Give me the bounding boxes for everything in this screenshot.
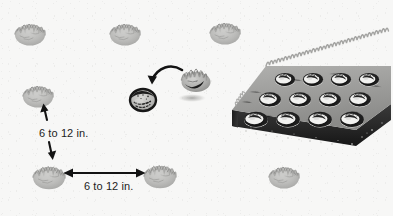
plant-top-left xyxy=(15,24,45,46)
plant-bottom-left xyxy=(33,166,65,189)
plant-top-right xyxy=(210,23,240,45)
tray-cell-r3c3 xyxy=(308,112,332,128)
tray-cell-r2c1 xyxy=(259,92,281,107)
tray-cell-r3c4 xyxy=(340,112,364,128)
tray-cell-r1c2 xyxy=(303,73,323,87)
held-seedling xyxy=(182,69,211,92)
tray-cell-r1c4 xyxy=(359,73,379,87)
plant-bottom-mid xyxy=(144,165,176,188)
tray-cell-r2c3 xyxy=(319,92,341,107)
transplant-action xyxy=(130,67,211,111)
transplant-arrow xyxy=(148,67,182,85)
tray-cell-r3c1 xyxy=(244,112,268,128)
horizontal-spacing-arrow xyxy=(63,169,145,178)
plant-top-center xyxy=(110,24,140,46)
dimension-arrows xyxy=(40,103,145,177)
vertical-spacing-arrow-down xyxy=(48,142,56,160)
tray-cell-r2c4 xyxy=(349,92,371,107)
tray-cell-r3c2 xyxy=(276,112,300,128)
horizontal-spacing-label: 6 to 12 in. xyxy=(84,180,133,192)
seedling-flat xyxy=(232,28,391,146)
vertical-spacing-label: 6 to 12 in. xyxy=(39,127,88,139)
plant-bottom-right xyxy=(269,167,299,189)
plant-mid-left xyxy=(23,86,53,108)
tray-cell-r1c1 xyxy=(275,73,295,87)
tray-cell-r1c3 xyxy=(331,73,351,87)
figure-artwork xyxy=(0,0,393,216)
transplant-spacing-figure: 6 to 12 in. 6 to 12 in. xyxy=(0,0,393,216)
tray-cell-r2c2 xyxy=(289,92,311,107)
seedling-shadow xyxy=(178,94,206,102)
planting-hole xyxy=(130,89,156,111)
